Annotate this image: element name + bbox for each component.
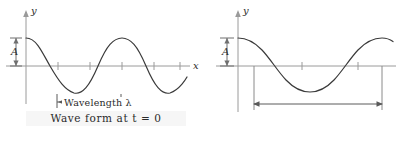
amplitude-label: A [221,46,229,57]
figure-root: A y x Wavelength λ Wave form at t = 0 [0,0,412,146]
vibration-plot: A y [206,0,412,146]
y-axis-label: y [242,5,249,16]
panel-wave-form: A y x Wavelength λ Wave form at t = 0 [0,0,206,146]
amplitude-label: A [10,46,18,57]
x-axis-label: x [193,60,199,71]
y-axis-label: y [30,5,37,16]
panel-vibration: A y Period T Vibration at x = 0 [206,0,412,146]
cosine-curve [238,38,393,92]
y-axis-arrowhead [23,10,29,17]
period-measure [253,66,383,110]
wavelength-label: Wavelength λ [62,97,134,108]
wave-form-caption: Wave form at t = 0 [26,111,186,126]
y-axis-arrowhead [235,10,241,17]
